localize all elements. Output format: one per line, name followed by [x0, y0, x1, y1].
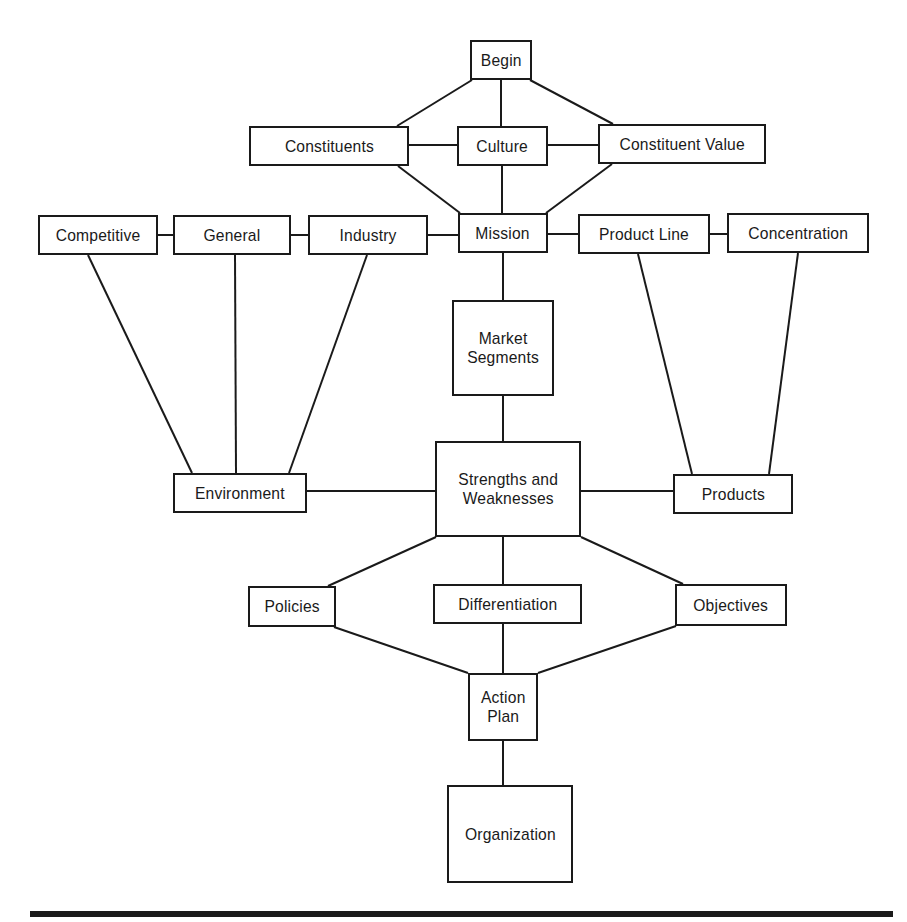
- node-label: Industry: [339, 226, 396, 245]
- node-industry: Industry: [308, 215, 428, 255]
- node-label: Mission: [476, 224, 530, 243]
- edge-concentration-to-products: [769, 253, 798, 474]
- node-product-line: Product Line: [578, 214, 710, 254]
- node-market-segments: Market Segments: [452, 300, 554, 396]
- edge-general-to-environment: [235, 255, 236, 473]
- node-label: Constituent Value: [619, 135, 744, 154]
- edge-begin-to-constituents: [397, 80, 472, 126]
- node-label: Begin: [481, 51, 522, 70]
- edge-begin-to-constituent-value: [530, 80, 613, 124]
- node-label: Product Line: [599, 225, 689, 244]
- edge-product-line-to-products: [638, 254, 692, 474]
- edge-strengths-weaknesses-to-policies: [328, 537, 436, 586]
- edge-policies-to-action-plan: [334, 627, 468, 673]
- node-label: General: [204, 226, 261, 245]
- node-competitive: Competitive: [38, 215, 158, 255]
- node-products: Products: [673, 474, 793, 514]
- node-general: General: [173, 215, 291, 255]
- edge-competitive-to-environment: [88, 255, 192, 473]
- node-label: Strengths and Weaknesses: [458, 470, 558, 508]
- node-label: Concentration: [748, 224, 848, 243]
- strategic-planning-diagram: Begin Constituents Culture Constituent V…: [0, 0, 907, 922]
- node-constituents: Constituents: [249, 126, 409, 166]
- node-label: Products: [701, 485, 764, 504]
- node-concentration: Concentration: [727, 213, 869, 253]
- node-label: Market Segments: [467, 329, 539, 367]
- node-label: Policies: [264, 597, 319, 616]
- node-label: Objectives: [694, 596, 769, 615]
- node-begin: Begin: [470, 40, 532, 80]
- node-action-plan: Action Plan: [468, 673, 538, 741]
- edge-constituent-value-to-mission: [546, 164, 612, 213]
- node-environment: Environment: [173, 473, 307, 513]
- edge-constituents-to-mission: [398, 166, 460, 213]
- node-objectives: Objectives: [675, 584, 787, 626]
- edge-industry-to-environment: [289, 255, 367, 473]
- edge-strengths-weaknesses-to-objectives: [581, 537, 683, 584]
- node-differentiation: Differentiation: [433, 584, 582, 624]
- node-label: Environment: [195, 484, 285, 503]
- node-policies: Policies: [248, 586, 336, 627]
- node-label: Culture: [477, 137, 529, 156]
- node-strengths-weaknesses: Strengths and Weaknesses: [435, 441, 581, 537]
- edge-objectives-to-action-plan: [538, 626, 676, 673]
- node-organization: Organization: [447, 785, 573, 883]
- node-label: Differentiation: [458, 595, 557, 614]
- node-culture: Culture: [457, 126, 548, 166]
- node-label: Constituents: [284, 137, 373, 156]
- node-constituent-value: Constituent Value: [598, 124, 766, 164]
- node-label: Action Plan: [481, 688, 526, 726]
- node-mission: Mission: [458, 213, 548, 253]
- node-label: Competitive: [56, 226, 141, 245]
- node-label: Organization: [465, 825, 556, 844]
